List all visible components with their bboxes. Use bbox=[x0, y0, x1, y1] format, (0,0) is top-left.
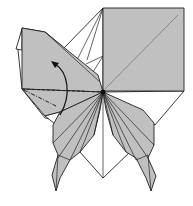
square-flap bbox=[103, 8, 184, 91]
origami-diagram bbox=[0, 0, 193, 206]
center-point bbox=[101, 90, 106, 95]
